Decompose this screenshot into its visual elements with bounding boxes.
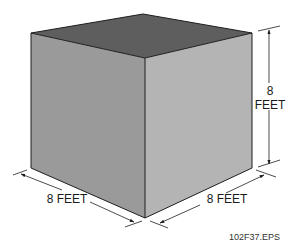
figure-id-label: 102F37.EPS bbox=[229, 232, 280, 242]
cube-right-face bbox=[145, 33, 252, 218]
right-extension-outer bbox=[256, 170, 276, 177]
left-extension-outer bbox=[13, 170, 27, 175]
left-width-label: 8 FEET bbox=[47, 192, 88, 206]
cube-left-face bbox=[31, 33, 145, 218]
height-unit-label: FEET bbox=[255, 98, 286, 112]
cube-diagram: 8 FEET 8 FEET 8 FEET 102F37.EPS bbox=[0, 0, 297, 251]
right-depth-label: 8 FEET bbox=[207, 192, 248, 206]
height-value-label: 8 bbox=[267, 84, 274, 98]
right-extension-inner bbox=[150, 221, 168, 228]
